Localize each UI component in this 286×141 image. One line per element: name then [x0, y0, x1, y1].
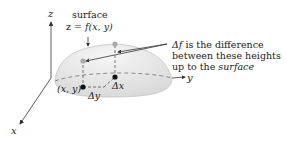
annotation-line3: up to the surface [172, 61, 254, 72]
x-axis [20, 78, 51, 124]
base-point-2 [112, 74, 117, 79]
surface-label-line2: z = f(x, y) [66, 21, 113, 32]
y-axis-label: y [186, 72, 193, 83]
x-axis-label: x [11, 125, 17, 136]
y-axis [172, 77, 185, 78]
surface-label-line1: surface [72, 9, 108, 20]
delta-y-label: Δy [87, 90, 101, 101]
annotation-line1: Δf is the difference [171, 39, 264, 50]
surface-point-2 [112, 41, 117, 46]
z-axis-label: z [47, 8, 54, 19]
delta-x-label: Δx [111, 80, 125, 91]
point-xy-label: (x, y) [57, 83, 81, 94]
surface-point-1 [80, 58, 85, 63]
surface-diagram: z x y surface z = f(x, y) Δf is the diff… [0, 0, 286, 141]
annotation-line2: between these heights [172, 50, 281, 61]
